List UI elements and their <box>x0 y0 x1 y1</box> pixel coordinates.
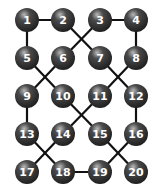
node-label: 6 <box>59 52 67 65</box>
node-label: 1 <box>23 14 31 27</box>
node-label: 16 <box>128 128 144 141</box>
node-layer: 1234567891011121314151617181920 <box>15 8 148 184</box>
node-label: 5 <box>23 52 31 65</box>
node-label: 11 <box>92 90 107 103</box>
node-18: 18 <box>51 160 75 184</box>
node-16: 16 <box>124 122 148 146</box>
node-label: 20 <box>128 166 144 179</box>
node-label: 2 <box>59 14 67 27</box>
node-20: 20 <box>124 160 148 184</box>
node-4: 4 <box>124 8 148 32</box>
node-label: 8 <box>132 52 140 65</box>
node-2: 2 <box>51 8 75 32</box>
node-label: 3 <box>96 14 104 27</box>
node-6: 6 <box>51 46 75 70</box>
node-1: 1 <box>15 8 39 32</box>
node-label: 15 <box>92 128 107 141</box>
node-9: 9 <box>15 84 39 108</box>
graph-canvas: 1234567891011121314151617181920 <box>0 0 155 190</box>
node-label: 12 <box>128 90 143 103</box>
node-10: 10 <box>51 84 75 108</box>
node-15: 15 <box>88 122 112 146</box>
node-7: 7 <box>88 46 112 70</box>
node-label: 18 <box>55 166 70 179</box>
node-8: 8 <box>124 46 148 70</box>
node-label: 19 <box>92 166 107 179</box>
node-label: 9 <box>23 90 31 103</box>
node-label: 10 <box>55 90 71 103</box>
edge-layer <box>27 20 136 172</box>
node-label: 17 <box>19 166 34 179</box>
node-5: 5 <box>15 46 39 70</box>
node-12: 12 <box>124 84 148 108</box>
node-3: 3 <box>88 8 112 32</box>
node-17: 17 <box>15 160 39 184</box>
node-13: 13 <box>15 122 39 146</box>
node-label: 13 <box>19 128 34 141</box>
node-label: 7 <box>96 52 104 65</box>
node-19: 19 <box>88 160 112 184</box>
node-14: 14 <box>51 122 75 146</box>
node-11: 11 <box>88 84 112 108</box>
node-label: 4 <box>132 14 140 27</box>
node-label: 14 <box>55 128 71 141</box>
graph-diagram: 1234567891011121314151617181920 <box>0 0 155 190</box>
